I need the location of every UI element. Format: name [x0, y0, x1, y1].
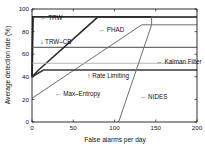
detection-rate-chart: 050100150200020406080100 ← TRW↓ TRW–CB← … — [0, 0, 205, 146]
annotation-trw: ← TRW — [40, 14, 62, 21]
annotation-nides: ← NIDES — [140, 93, 167, 100]
y-tick-label: 100 — [19, 5, 30, 12]
annotation-rate-limiting: ↑ Rate Limiting — [87, 72, 129, 80]
x-tick-label: 0 — [30, 124, 34, 131]
x-tick-label: 50 — [70, 124, 77, 131]
annotation-max-entropy: ← Max–Entropy — [55, 90, 101, 98]
y-tick-label: 40 — [22, 73, 29, 80]
y-tick-label: 0 — [26, 118, 30, 125]
y-tick-label: 60 — [22, 50, 29, 57]
y-tick-label: 80 — [22, 28, 29, 35]
annotation-trw-cb: ↓ TRW–CB — [40, 38, 71, 45]
annotation-kalman-filter: ← Kalman Filter — [157, 58, 202, 65]
ticks-group: 050100150200020406080100 — [19, 5, 203, 131]
x-tick-label: 100 — [109, 124, 120, 131]
series-group — [32, 17, 197, 122]
annotations-group: ← TRW↓ TRW–CB← PHAD← Kalman Filter↑ Rate… — [40, 14, 201, 100]
chart-figure: 050100150200020406080100 ← TRW↓ TRW–CB← … — [0, 0, 205, 146]
x-axis-label: False alarms per day — [84, 136, 146, 144]
x-tick-label: 150 — [151, 124, 162, 131]
annotation-phad: ← PHAD — [99, 26, 125, 33]
y-axis-label: Average detection rate (%) — [4, 26, 12, 104]
y-tick-label: 20 — [22, 96, 29, 103]
x-tick-label: 200 — [192, 124, 203, 131]
